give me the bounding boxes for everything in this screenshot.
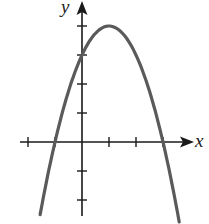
parabola-graph: ) y x — [0, 0, 209, 224]
x-axis-label: x — [195, 130, 203, 152]
y-axis-label: y — [61, 0, 69, 18]
parabola-curve — [40, 26, 179, 222]
plot-area — [0, 0, 209, 224]
